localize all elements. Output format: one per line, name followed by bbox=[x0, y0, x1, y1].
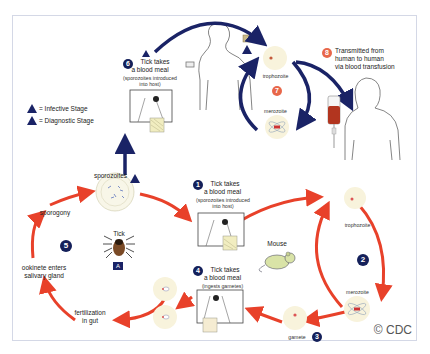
trophozoite-human-label: trophozoite bbox=[248, 73, 303, 80]
legend-diagnostic: = Diagnostic Stage bbox=[27, 116, 94, 125]
step-1-line2: a blood meal bbox=[195, 188, 250, 196]
step-8-line1: Transmitted from bbox=[335, 47, 384, 55]
trophozoite-mouse-cell bbox=[344, 187, 366, 209]
tick-badge-label: A bbox=[113, 262, 123, 270]
copyright-cdc: © CDC bbox=[374, 323, 412, 337]
gamete-label: gamete bbox=[282, 334, 312, 341]
tick-illustration bbox=[103, 236, 135, 258]
tick-feeding-illustration-1 bbox=[198, 213, 244, 250]
infective-stage-icon-6 bbox=[142, 50, 150, 57]
ookinete-line2: salivary gland bbox=[14, 272, 74, 280]
sporogony-label: sporogony bbox=[30, 209, 80, 217]
tick-feeding-illustration-6 bbox=[130, 90, 172, 132]
step-4-line1: Tick takes bbox=[200, 266, 250, 274]
diagnostic-stage-icon bbox=[27, 116, 37, 125]
legend-diagnostic-label: = Diagnostic Stage bbox=[39, 117, 94, 124]
merozoite-mouse-label: merozoite bbox=[330, 289, 385, 296]
infective-stage-icon bbox=[27, 104, 37, 113]
step-6-line4: into host) bbox=[115, 81, 185, 88]
step-5-badge: 5 bbox=[60, 240, 72, 252]
step-8-badge: 8 bbox=[322, 48, 332, 58]
ookinete-line1: ookinete enters bbox=[14, 264, 74, 272]
step-6-line1: Tick takes bbox=[130, 58, 180, 66]
tick-feeding-illustration-4 bbox=[197, 290, 243, 332]
trophozoite-mouse-label: trophozoite bbox=[330, 222, 385, 229]
merozoite-human-label: merozoite bbox=[248, 108, 303, 115]
diagnostic-stage-icon bbox=[242, 45, 252, 54]
human-badge bbox=[243, 35, 251, 42]
trophozoite-human-cell bbox=[263, 46, 287, 70]
tick-label: Tick bbox=[104, 230, 134, 238]
fertilization-line2: in gut bbox=[65, 317, 115, 325]
legend-infective-label: = Infective Stage bbox=[39, 105, 88, 112]
gamete-cell bbox=[283, 306, 307, 330]
step-4-line2: a blood meal bbox=[195, 274, 250, 282]
mouse-illustration bbox=[259, 252, 295, 272]
sporozoites-label: sporozoites bbox=[88, 172, 133, 180]
step-8-line2: human to human bbox=[335, 55, 384, 63]
transfusion-recipient-figure bbox=[345, 78, 400, 160]
step-8-line3: via blood transfusion bbox=[335, 63, 395, 71]
step-7-badge: 7 bbox=[272, 86, 282, 96]
legend-infective: = Infective Stage bbox=[27, 104, 88, 113]
step-1-line1: Tick takes bbox=[200, 180, 250, 188]
step-4-line3: (ingests gametes) bbox=[195, 283, 250, 290]
mouse-label: Mouse bbox=[262, 240, 292, 248]
fertilization-line1: fertilization bbox=[65, 309, 115, 317]
step-6-line2: a blood meal bbox=[120, 66, 180, 74]
step-3-badge: 3 bbox=[312, 332, 322, 342]
blood-bag-icon bbox=[328, 96, 340, 148]
step-2-badge: 2 bbox=[357, 254, 369, 266]
step-1-line4: into host) bbox=[188, 203, 258, 210]
